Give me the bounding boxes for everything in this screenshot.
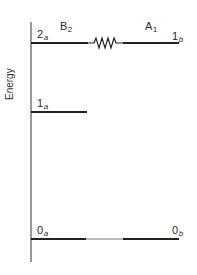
symmetry-label-b2: B2: [60, 21, 72, 35]
level-2a-subscript: a: [44, 33, 48, 42]
level-0b-number: 0: [172, 224, 178, 236]
symmetry-label-a1-main: A: [145, 20, 152, 32]
level-1b-subscript: b: [179, 35, 183, 44]
level-1b-label: 1b: [172, 31, 183, 45]
level-1b-number: 1: [172, 30, 178, 42]
level-2a-label: 2a: [37, 29, 48, 43]
level-0b-label: 0b: [172, 225, 183, 239]
coupling-zigzag: [88, 38, 123, 48]
level-0b-subscript: b: [179, 229, 183, 238]
symmetry-label-a1-sub: 1: [153, 25, 157, 34]
symmetry-label-a1: A1: [145, 21, 157, 35]
energy-axis-label: Energy: [4, 68, 15, 100]
symmetry-label-b2-sub: 2: [68, 25, 72, 34]
level-0a-label: 0a: [37, 225, 48, 239]
symmetry-label-b2-main: B: [60, 20, 67, 32]
level-1a-number: 1: [37, 97, 43, 109]
level-1a-label: 1a: [37, 98, 48, 112]
level-0a-subscript: a: [44, 229, 48, 238]
level-2a-number: 2: [37, 28, 43, 40]
level-1a-subscript: a: [44, 102, 48, 111]
level-0a-number: 0: [37, 224, 43, 236]
energy-diagram-canvas: [0, 0, 197, 275]
